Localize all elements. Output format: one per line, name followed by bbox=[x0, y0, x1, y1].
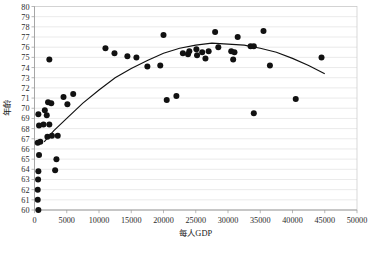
data-point bbox=[61, 94, 67, 100]
data-point bbox=[319, 54, 325, 60]
data-point bbox=[64, 101, 70, 107]
x-tick-label: 25000 bbox=[186, 216, 206, 225]
x-tick-label: 30000 bbox=[218, 216, 238, 225]
y-tick-label: 71 bbox=[21, 94, 29, 103]
y-tick-label: 68 bbox=[21, 125, 29, 134]
scatter-chart: 0500010000150002000025000300003500040000… bbox=[0, 0, 384, 256]
x-tick-label: 0 bbox=[32, 216, 36, 225]
data-point bbox=[41, 122, 47, 128]
gridlines bbox=[35, 7, 358, 211]
data-point bbox=[36, 152, 42, 158]
data-point bbox=[35, 176, 41, 182]
data-point bbox=[193, 46, 199, 52]
data-point bbox=[102, 45, 108, 51]
data-point bbox=[212, 29, 218, 35]
data-point bbox=[186, 48, 192, 54]
data-point bbox=[251, 110, 257, 116]
data-point bbox=[35, 207, 41, 213]
data-point bbox=[173, 93, 179, 99]
x-tick-label: 40000 bbox=[282, 216, 302, 225]
y-tick-label: 70 bbox=[21, 104, 29, 113]
data-point bbox=[157, 63, 163, 69]
y-axis-title: 年齡 bbox=[2, 99, 12, 116]
data-point bbox=[202, 55, 208, 61]
data-point bbox=[235, 34, 241, 40]
data-point bbox=[35, 187, 41, 193]
data-point bbox=[42, 107, 48, 113]
y-tick-label: 74 bbox=[21, 64, 29, 73]
data-point bbox=[46, 122, 52, 128]
x-tick-labels: 0500010000150002000025000300003500040000… bbox=[32, 216, 367, 225]
data-point bbox=[48, 100, 54, 106]
x-tick-label: 45000 bbox=[315, 216, 335, 225]
x-tick-label: 5000 bbox=[59, 216, 75, 225]
chart-canvas: 0500010000150002000025000300003500040000… bbox=[0, 0, 384, 256]
data-point bbox=[70, 91, 76, 97]
y-tick-label: 73 bbox=[21, 74, 29, 83]
data-point bbox=[46, 56, 52, 62]
y-tick-label: 62 bbox=[21, 186, 29, 195]
y-axis-ticks bbox=[32, 7, 35, 211]
y-tick-label: 61 bbox=[21, 196, 29, 205]
y-tick-label: 75 bbox=[21, 53, 29, 62]
y-tick-label: 65 bbox=[21, 155, 29, 164]
y-tick-label: 76 bbox=[21, 43, 29, 52]
data-point bbox=[231, 49, 237, 55]
x-axis-title: 每人GDP bbox=[179, 228, 212, 238]
data-point bbox=[161, 32, 167, 38]
data-point bbox=[215, 44, 221, 50]
y-tick-labels: 6061626364656667686970717273747576777879… bbox=[21, 3, 29, 216]
data-point bbox=[293, 96, 299, 102]
x-tick-label: 50000 bbox=[347, 216, 367, 225]
data-point bbox=[37, 139, 43, 145]
y-tick-label: 79 bbox=[21, 13, 29, 22]
y-tick-label: 60 bbox=[21, 206, 29, 215]
data-point bbox=[53, 156, 59, 162]
data-point bbox=[260, 28, 266, 34]
data-points bbox=[35, 28, 325, 213]
y-tick-label: 63 bbox=[21, 175, 29, 184]
y-tick-label: 69 bbox=[21, 114, 29, 123]
data-point bbox=[267, 63, 273, 69]
data-point bbox=[206, 48, 212, 54]
data-point bbox=[35, 168, 41, 174]
y-tick-label: 67 bbox=[21, 135, 29, 144]
data-point bbox=[230, 56, 236, 62]
data-point bbox=[111, 50, 117, 56]
y-tick-label: 72 bbox=[21, 84, 29, 93]
x-axis-ticks bbox=[35, 210, 358, 213]
data-point bbox=[35, 197, 41, 203]
y-tick-label: 64 bbox=[21, 165, 29, 174]
y-tick-label: 66 bbox=[21, 145, 29, 154]
x-tick-label: 10000 bbox=[89, 216, 109, 225]
x-tick-label: 15000 bbox=[121, 216, 141, 225]
trend-curve bbox=[44, 43, 325, 142]
data-point bbox=[199, 49, 205, 55]
y-tick-label: 80 bbox=[21, 3, 29, 12]
data-point bbox=[164, 97, 170, 103]
data-point bbox=[35, 111, 41, 117]
y-tick-label: 77 bbox=[21, 33, 29, 42]
x-tick-label: 35000 bbox=[250, 216, 270, 225]
trendline bbox=[44, 43, 325, 142]
data-point bbox=[133, 54, 139, 60]
data-point bbox=[124, 53, 130, 59]
data-point bbox=[55, 133, 61, 139]
data-point bbox=[144, 64, 150, 70]
x-tick-label: 20000 bbox=[153, 216, 173, 225]
data-point bbox=[194, 52, 200, 58]
data-point bbox=[52, 167, 58, 173]
y-tick-label: 78 bbox=[21, 23, 29, 32]
data-point bbox=[180, 50, 186, 56]
